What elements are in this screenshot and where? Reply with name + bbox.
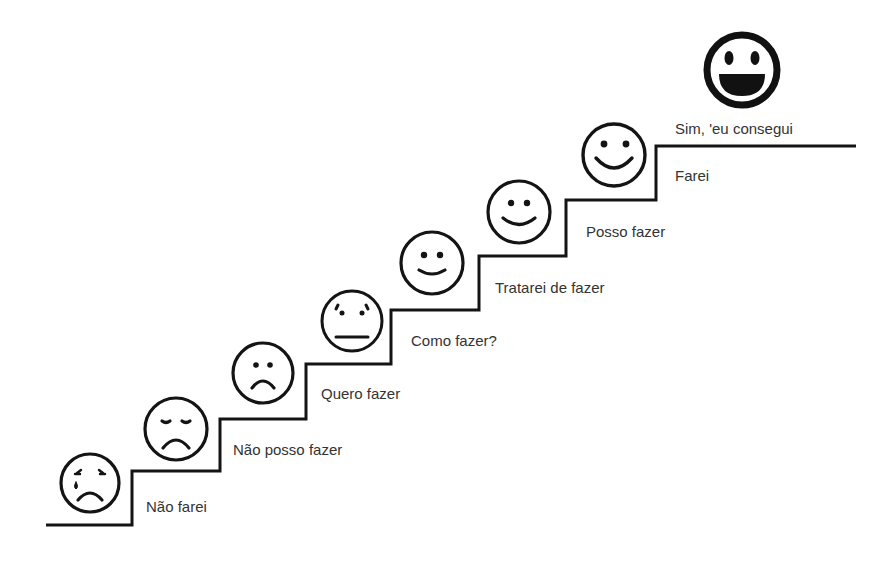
step-label-3: Quero fazer: [321, 386, 400, 401]
sad-closed-eyes-face-icon: [145, 398, 207, 460]
crying-face-icon: [61, 454, 119, 512]
step-label-2: Não posso fazer: [233, 442, 342, 457]
step-label-6: Posso fazer: [586, 224, 665, 239]
slight-smile-face-icon: [401, 232, 463, 294]
grinning-face-icon: [707, 35, 777, 105]
smile-face-icon: [488, 181, 550, 243]
step-label-4: Como fazer?: [411, 333, 497, 348]
staircase-diagram: Não farei Não posso fazer Quero fazer Co…: [0, 0, 895, 563]
staircase-graphic: [0, 0, 895, 563]
frowning-face-icon: [233, 343, 293, 403]
step-label-5: Tratarei de fazer: [495, 280, 605, 295]
step-label-7: Farei: [675, 168, 709, 183]
neutral-face-icon: [322, 291, 382, 351]
step-label-8: Sim, 'eu consegui: [675, 121, 793, 136]
step-label-1: Não farei: [146, 499, 207, 514]
big-smile-face-icon: [583, 124, 645, 186]
